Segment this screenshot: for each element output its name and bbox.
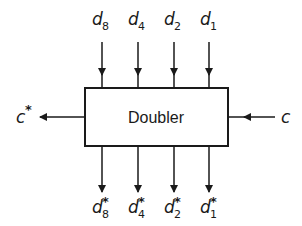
input-label-d4: d 4 — [128, 9, 145, 33]
svg-text:*: * — [102, 194, 109, 209]
svg-text:4: 4 — [138, 20, 145, 33]
output-label-d2-star: d 2 * — [164, 194, 181, 221]
carry-out-label: c * — [16, 102, 32, 127]
svg-text:8: 8 — [102, 208, 109, 221]
doubler-label: Doubler — [128, 109, 185, 126]
svg-text:*: * — [138, 194, 145, 209]
svg-text:2: 2 — [174, 208, 181, 221]
output-label-d8-star: d 8 * — [92, 194, 109, 221]
svg-text:*: * — [210, 194, 217, 209]
input-label-d1: d 1 — [200, 9, 217, 33]
input-label-d2: d 2 — [164, 9, 181, 33]
input-label-d8: d 8 — [92, 9, 109, 33]
svg-text:*: * — [174, 194, 181, 209]
output-label-d1-star: d 1 * — [200, 194, 217, 221]
doubler-diagram: Doubler d 8 d 4 d 2 d 1 d 8 * d 4 * d 2 … — [0, 0, 302, 226]
carry-in-label: c — [281, 107, 291, 127]
svg-text:1: 1 — [210, 208, 217, 221]
output-label-d4-star: d 4 * — [128, 194, 145, 221]
svg-text:8: 8 — [102, 20, 109, 33]
svg-text:4: 4 — [138, 208, 145, 221]
svg-text:2: 2 — [174, 20, 181, 33]
svg-text:*: * — [25, 102, 32, 117]
svg-text:1: 1 — [210, 20, 217, 33]
